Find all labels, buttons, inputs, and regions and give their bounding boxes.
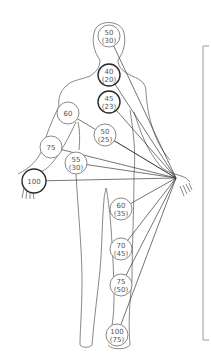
node-right-thigh: 60(35): [110, 198, 132, 220]
node-head: 50(30): [98, 25, 120, 47]
node-subvalue: (35): [114, 210, 129, 218]
node-left-upper-arm: 60: [57, 102, 79, 124]
node-value: 55: [72, 156, 81, 164]
node-value: 60: [64, 110, 73, 118]
node-value: 75: [47, 144, 56, 152]
node-subvalue: (23): [102, 103, 117, 111]
node-subvalue: (25): [98, 136, 113, 144]
node-right-foot: 100(75): [106, 324, 128, 346]
node-left-hip: 55(30): [65, 152, 87, 174]
node-value: 100: [110, 328, 123, 336]
node-right-shin: 75(50): [110, 274, 132, 296]
node-subvalue: (30): [102, 37, 117, 45]
node-value: 50: [105, 29, 114, 37]
body-measurement-diagram: 50(30)40(20)45(23)50(25)607555(30)10060(…: [0, 0, 211, 363]
node-subvalue: (50): [114, 286, 129, 294]
node-value: 100: [27, 178, 40, 186]
node-value: 45: [105, 95, 114, 103]
node-subvalue: (30): [69, 164, 84, 172]
node-subvalue: (75): [110, 336, 125, 344]
ray-neck: [109, 75, 176, 178]
ray-chest: [109, 102, 176, 178]
node-neck: 40(20): [98, 64, 120, 86]
node-value: 60: [117, 202, 126, 210]
node-value: 40: [105, 68, 114, 76]
ray-left-hand: [34, 178, 176, 181]
ray-right-shin: [121, 178, 176, 285]
node-right-knee: 70(45): [110, 238, 132, 260]
node-value: 70: [117, 242, 126, 250]
node-subvalue: (20): [102, 76, 117, 84]
node-value: 50: [101, 128, 110, 136]
node-chest: 45(23): [98, 91, 120, 113]
node-subvalue: (45): [114, 250, 129, 258]
node-value: 75: [117, 278, 126, 286]
node-abdomen: 50(25): [94, 124, 116, 146]
node-left-forearm: 75: [40, 136, 62, 158]
right-bracket: [203, 46, 209, 340]
node-left-hand: 100: [22, 169, 46, 193]
